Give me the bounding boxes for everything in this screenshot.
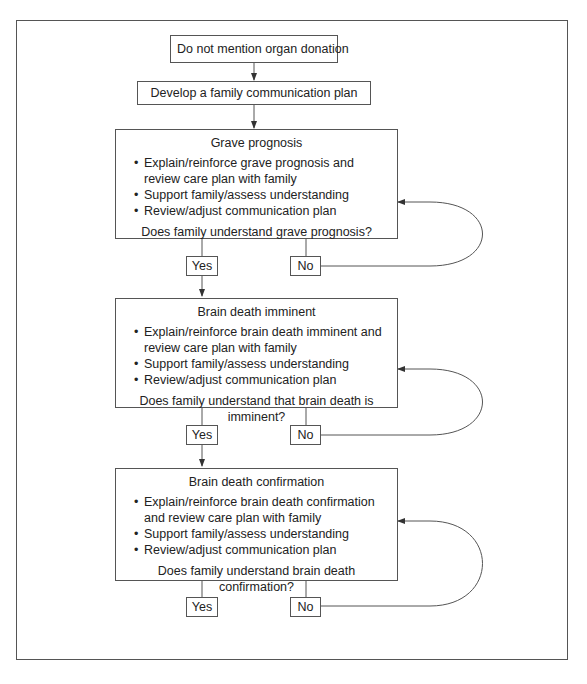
stage-brain-death-imminent: Brain death imminent Explain/reinforce b… bbox=[115, 298, 398, 408]
yes-box: Yes bbox=[186, 597, 218, 617]
communication-plan-label: Develop a family communication plan bbox=[150, 86, 357, 100]
stage-bullets: Explain/reinforce grave prognosis and re… bbox=[126, 155, 387, 219]
no-box: No bbox=[290, 425, 321, 445]
bullet-item: Review/adjust communication plan bbox=[144, 542, 387, 558]
start-box-label: Do not mention organ donation bbox=[177, 42, 349, 56]
stage-question: Does family understand grave prognosis? bbox=[126, 224, 387, 240]
yes-label: Yes bbox=[192, 600, 212, 614]
stage-title: Brain death confirmation bbox=[126, 474, 387, 490]
stage-grave-prognosis: Grave prognosis Explain/reinforce grave … bbox=[115, 129, 398, 239]
bullet-item: Explain/reinforce brain death imminent a… bbox=[144, 324, 387, 356]
bullet-item: Support family/assess understanding bbox=[144, 356, 387, 372]
bullet-item: Support family/assess understanding bbox=[144, 187, 387, 203]
stage-title: Grave prognosis bbox=[126, 135, 387, 151]
bullet-item: Support family/assess understanding bbox=[144, 526, 387, 542]
stage-bullets: Explain/reinforce brain death confirmati… bbox=[126, 494, 387, 558]
stage-question: Does family understand brain death confi… bbox=[126, 563, 387, 595]
yes-label: Yes bbox=[192, 259, 212, 273]
bullet-item: Review/adjust communication plan bbox=[144, 203, 387, 219]
start-box: Do not mention organ donation bbox=[170, 35, 338, 63]
no-box: No bbox=[290, 256, 321, 276]
bullet-item: Review/adjust communication plan bbox=[144, 372, 387, 388]
yes-label: Yes bbox=[192, 428, 212, 442]
stage-bullets: Explain/reinforce brain death imminent a… bbox=[126, 324, 387, 388]
no-label: No bbox=[298, 428, 314, 442]
no-label: No bbox=[298, 600, 314, 614]
no-box: No bbox=[290, 597, 321, 617]
stage-brain-death-confirmation: Brain death confirmation Explain/reinfor… bbox=[115, 468, 398, 581]
bullet-item: Explain/reinforce grave prognosis and re… bbox=[144, 155, 387, 187]
yes-box: Yes bbox=[186, 425, 218, 445]
communication-plan-box: Develop a family communication plan bbox=[137, 81, 371, 105]
yes-box: Yes bbox=[186, 256, 218, 276]
bullet-item: Explain/reinforce brain death confirmati… bbox=[144, 494, 387, 526]
no-label: No bbox=[298, 259, 314, 273]
stage-title: Brain death imminent bbox=[126, 304, 387, 320]
stage-question: Does family understand that brain death … bbox=[126, 393, 387, 425]
